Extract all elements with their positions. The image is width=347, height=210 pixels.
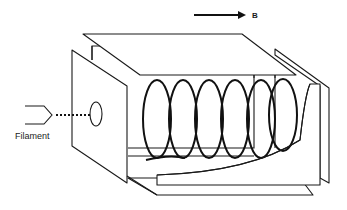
front-left-plate <box>72 50 127 183</box>
filament-icon <box>25 106 52 124</box>
top-plate <box>83 34 296 75</box>
filament-label: Filament <box>15 131 50 141</box>
magnetic-field-arrow <box>194 11 246 19</box>
field-label: B <box>252 11 258 20</box>
ion-source-diagram: B Filament <box>0 0 347 210</box>
